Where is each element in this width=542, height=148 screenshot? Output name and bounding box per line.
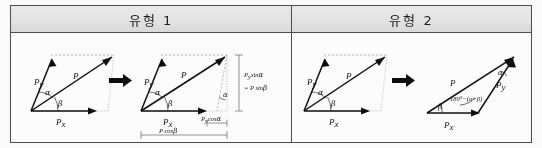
label-interior-angle: 180°−(α+β)	[450, 95, 482, 103]
label-py: Py	[33, 77, 44, 89]
label-p-cos-beta: P cosβ	[158, 127, 177, 135]
vector-px-arrowhead-3	[361, 108, 370, 115]
label-alpha: α	[45, 88, 51, 97]
label-alpha-2: α	[155, 88, 161, 97]
figure-cell-type1: Py P Px α β	[11, 33, 291, 143]
label-py-2: Py	[143, 77, 154, 89]
label-py-4: Py	[495, 80, 506, 92]
vector-p-arrowhead	[102, 57, 112, 66]
table-header-type2-label: 유형 2	[389, 10, 433, 29]
label-p-3: P	[345, 71, 352, 81]
label-py-3: Py	[306, 77, 317, 89]
scanned-page: 유형 1 유형 2	[0, 0, 542, 148]
label-beta-5: β	[437, 102, 443, 111]
label-p-4: P	[449, 78, 456, 88]
dimension-p-cos-beta	[141, 131, 227, 139]
label-beta: β	[57, 99, 63, 108]
table-header-type1: 유형 1	[11, 6, 291, 32]
table-header-type1-label: 유형 1	[129, 10, 173, 29]
figure-type2-step1: Py P Px α β	[304, 55, 387, 129]
label-beta-4: β	[330, 99, 336, 108]
arrow-step1-to-step2-type2	[392, 74, 415, 87]
label-px-4: Px	[443, 120, 454, 132]
table-header-row: 유형 1 유형 2	[11, 6, 531, 33]
label-p-sin-beta: = P sinβ	[244, 84, 267, 92]
table-body-row: Py P Px α β	[11, 33, 531, 143]
label-alpha-4: α	[318, 88, 324, 97]
label-alpha-3: α	[223, 91, 228, 99]
label-py-sin-alpha: Pysinα	[243, 71, 263, 80]
arrow-step1-to-step2-type1	[109, 74, 132, 87]
label-alpha-5: α	[498, 69, 503, 77]
label-p-2: P	[180, 70, 187, 80]
vector-p-arrowhead-3	[375, 57, 385, 66]
dimension-vertical	[235, 55, 243, 111]
label-py-cos-alpha: Pycosα	[200, 115, 222, 124]
right-arrow-icon-2	[392, 74, 415, 87]
label-beta-2: β	[167, 99, 173, 108]
construction-right-edge-3	[381, 55, 387, 111]
figure-type2-step2: P Py Px α β 180°−(α+β)	[427, 57, 516, 132]
figure-cell-type2: Py P Px α β	[291, 33, 533, 143]
table-header-type2: 유형 2	[291, 6, 531, 32]
figure-table: 유형 1 유형 2	[10, 5, 532, 143]
figure-type1-step1: Py P Px α β	[31, 55, 114, 129]
label-px: Px	[55, 117, 66, 129]
vector-p-arrowhead-2	[215, 57, 225, 66]
vector-px-arrowhead-2	[198, 108, 207, 115]
vector-p-2	[141, 57, 225, 111]
diagram-type1: Py P Px α β	[11, 33, 291, 143]
vector-px-arrowhead	[88, 108, 97, 115]
diagram-type2: Py P Px α β	[292, 33, 533, 143]
label-p: P	[72, 71, 79, 81]
figure-type1-step2: Py P Px α β α Pysinα = P sinβ Pycosα	[141, 55, 267, 139]
label-px-3: Px	[328, 117, 339, 129]
right-arrow-icon	[109, 74, 132, 87]
